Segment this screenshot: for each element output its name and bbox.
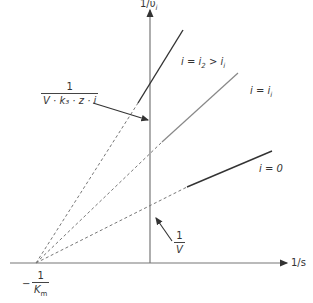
line-i0-dashed [36,187,187,263]
line-i1-dashed [36,142,162,263]
line-i2-solid [138,30,183,103]
annotation-intercept-v: 1 V [174,230,185,255]
y-axis-label: 1/υi [140,0,157,12]
x-axis-label: 1/s [291,258,306,268]
annotation-x-intercept: 1 Km [32,270,49,299]
arrow-intercept-v [156,218,172,241]
annotation-intercept-inhibited: 1 V · k₃ · z · i [41,81,98,106]
line-i1-solid [162,73,238,142]
diagram-canvas [0,0,313,303]
x-intercept-sign: − [22,278,30,289]
line-i2-dashed [36,103,138,263]
arrow-intercept-top [93,103,148,120]
label-line-i2: i = i2 > ii [181,57,225,70]
label-line-i1: i = ii [250,86,272,99]
label-line-i0: i = 0 [259,164,283,174]
